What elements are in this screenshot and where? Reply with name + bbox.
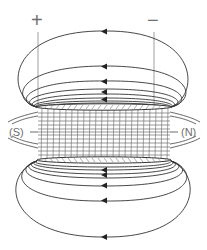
- arrow-left-icon: [101, 97, 107, 103]
- coil-windings: [41, 108, 168, 160]
- field-lines-top: [18, 31, 188, 107]
- solenoid-field-diagram: [0, 0, 207, 250]
- negative-terminal-label: −: [147, 10, 159, 30]
- coil-bottom-ellipse: [37, 157, 171, 163]
- field-lines-sides: [8, 112, 200, 148]
- arrow-left-icon: [101, 234, 107, 240]
- arrow-left-icon: [101, 183, 107, 189]
- arrow-left-icon: [101, 198, 107, 204]
- arrow-left-icon: [101, 79, 107, 85]
- arrows-top: [101, 29, 107, 103]
- arrow-left-icon: [101, 172, 107, 178]
- coil-top-ellipse: [37, 104, 171, 110]
- arrow-left-icon: [101, 167, 107, 173]
- north-pole-label: (N): [181, 126, 196, 138]
- positive-terminal-label: +: [31, 10, 43, 30]
- arrow-left-icon: [101, 29, 107, 35]
- south-pole-label: (S): [9, 126, 24, 138]
- arrow-left-icon: [101, 64, 107, 70]
- coil-interior-field: [38, 113, 170, 155]
- field-lines-bottom: [16, 161, 190, 237]
